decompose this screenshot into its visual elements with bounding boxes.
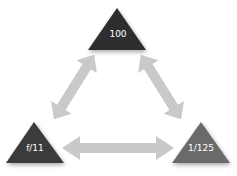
aperture-label: f/11 <box>5 143 65 153</box>
shutter-label: 1/125 <box>171 143 231 153</box>
arrow-iso-shutter <box>131 48 192 125</box>
iso-label: 100 <box>88 29 148 39</box>
arrow-iso-aperture <box>44 48 105 125</box>
arrow-aperture-shutter <box>62 136 174 160</box>
exposure-triangle-diagram: 100 f/11 1/125 <box>0 0 237 176</box>
